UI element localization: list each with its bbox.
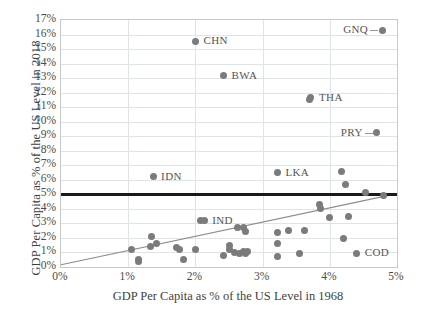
y-tick-label: 0% bbox=[14, 260, 56, 272]
y-tick-label: 9% bbox=[14, 129, 56, 141]
data-point bbox=[274, 229, 281, 236]
data-point-label: PRY bbox=[333, 126, 363, 138]
x-tick-label: 1% bbox=[107, 271, 147, 283]
y-tick-label: 4% bbox=[14, 202, 56, 214]
data-point bbox=[192, 38, 199, 45]
y-tick-label: 8% bbox=[14, 144, 56, 156]
plot-area: CHNBWATHAGNQPRYIDNLKAINDCOD bbox=[60, 19, 398, 268]
label-leader-line bbox=[365, 133, 373, 134]
data-point bbox=[340, 235, 347, 242]
y-tick-label: 14% bbox=[14, 57, 56, 69]
data-point-label: BWA bbox=[232, 69, 258, 81]
data-point bbox=[338, 168, 345, 175]
data-point-label: LKA bbox=[285, 166, 309, 178]
data-point bbox=[128, 246, 135, 253]
data-point bbox=[242, 250, 249, 257]
y-tick-label: 7% bbox=[14, 158, 56, 170]
data-point bbox=[274, 169, 281, 176]
data-point-label: COD bbox=[365, 246, 389, 258]
x-axis-title: GDP Per Capita as % of the US Level in 1… bbox=[60, 289, 396, 304]
y-tick-label: 13% bbox=[14, 71, 56, 83]
y-tick-label: 1% bbox=[14, 245, 56, 257]
data-point-label: THA bbox=[319, 91, 343, 103]
data-point-label: GNQ bbox=[338, 23, 368, 35]
data-point bbox=[201, 217, 208, 224]
data-point-label: IDN bbox=[161, 170, 182, 182]
scatter-chart: GDP Per Capita as % of the US Level in 2… bbox=[0, 0, 421, 316]
y-tick-label: 3% bbox=[14, 216, 56, 228]
data-point bbox=[180, 256, 187, 263]
data-point bbox=[220, 252, 227, 259]
data-point-label: CHN bbox=[203, 34, 227, 46]
x-tick-label: 4% bbox=[309, 271, 349, 283]
y-tick-label: 11% bbox=[14, 100, 56, 112]
data-point bbox=[353, 250, 360, 257]
y-tick-label: 17% bbox=[14, 13, 56, 25]
x-tick-label: 0% bbox=[40, 271, 80, 283]
y-tick-label: 12% bbox=[14, 86, 56, 98]
y-tick-label: 16% bbox=[14, 28, 56, 40]
data-point bbox=[153, 240, 160, 247]
x-tick-label: 2% bbox=[174, 271, 214, 283]
threshold-line-5-percent bbox=[61, 193, 397, 196]
data-point-label: IND bbox=[212, 214, 233, 226]
y-tick-label: 10% bbox=[14, 115, 56, 127]
x-tick-label: 5% bbox=[376, 271, 416, 283]
label-leader-line bbox=[370, 30, 378, 31]
y-tick-label: 6% bbox=[14, 173, 56, 185]
data-point bbox=[317, 205, 324, 212]
data-point bbox=[147, 243, 154, 250]
data-point bbox=[135, 258, 142, 265]
data-point bbox=[362, 189, 369, 196]
data-point bbox=[379, 27, 386, 34]
y-tick-label: 2% bbox=[14, 231, 56, 243]
y-tick-label: 15% bbox=[14, 42, 56, 54]
data-point bbox=[150, 173, 157, 180]
y-tick-label: 5% bbox=[14, 187, 56, 199]
x-tick-label: 3% bbox=[242, 271, 282, 283]
data-point bbox=[306, 96, 313, 103]
trendline bbox=[61, 20, 397, 267]
